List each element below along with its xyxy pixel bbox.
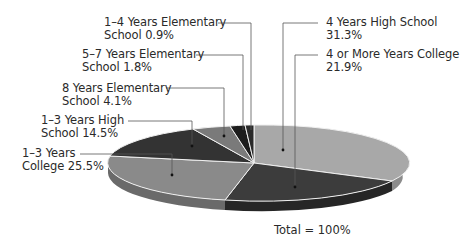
pie-slices [108,125,410,201]
label-4-or-more-years-college: 4 or More Years College 21.9% [326,48,459,74]
label-8-years-elementary: 8 Years Elementary School 4.1% [62,82,171,108]
label-5-7-years-elementary: 5–7 Years Elementary School 1.8% [82,48,204,74]
label-1-4-years-elementary: 1–4 Years Elementary School 0.9% [104,16,226,42]
label-1-3-years-high-school: 1–3 Years High School 14.5% [41,114,124,140]
label-4-years-high-school: 4 Years High School 31.3% [326,16,437,42]
label-1-3-years-college: 1–3 Years College 25.5% [22,147,104,173]
total-label: Total = 100% [274,223,351,237]
